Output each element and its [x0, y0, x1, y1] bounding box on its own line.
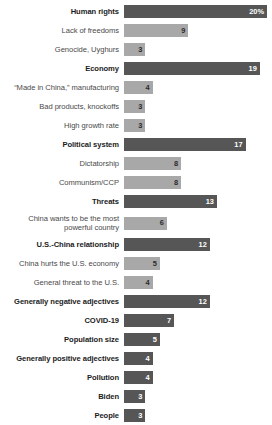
bar-row: Pollution4: [0, 368, 272, 387]
bar-track: 5: [124, 330, 272, 349]
bar-value-label: 8: [174, 160, 178, 167]
bar-track: 4: [124, 273, 272, 292]
bar-row-label: Biden: [0, 392, 124, 401]
bar-row-label: “Made in China,” manufacturing: [0, 83, 124, 92]
bar-row: Population size5: [0, 330, 272, 349]
bar-value-label: 3: [138, 393, 142, 400]
bar-row: Political system17: [0, 135, 272, 154]
bar: 5: [124, 333, 160, 346]
bar-row-label: Threats: [0, 197, 124, 206]
bar-value-label: 9: [181, 27, 185, 34]
bar: 3: [124, 390, 145, 403]
bar-track: 3: [124, 406, 272, 425]
bar-row-label: Genocide, Uyghurs: [0, 45, 124, 54]
bar: 3: [124, 119, 145, 132]
bar-row: Dictatorship8: [0, 154, 272, 173]
bar-value-label: 13: [206, 198, 214, 205]
bar-row: High growth rate3: [0, 116, 272, 135]
bar: 3: [124, 409, 145, 422]
bar-value-label: 8: [174, 179, 178, 186]
bar: 4: [124, 276, 153, 289]
bar: 4: [124, 352, 153, 365]
bar-row: China wants to be the most powerful coun…: [0, 211, 272, 235]
bar-row: Generally positive adjectives4: [0, 349, 272, 368]
bar-row-label: General threat to the U.S.: [0, 278, 124, 287]
bar-row: Lack of freedoms9: [0, 21, 272, 40]
bar-row-label: U.S.-China relationship: [0, 240, 124, 249]
bar-row-label: Lack of freedoms: [0, 26, 124, 35]
bar-track: 5: [124, 254, 272, 273]
bar: 12: [124, 238, 210, 251]
bar-value-label: 19: [249, 65, 257, 72]
bar-row: Economy19: [0, 59, 272, 78]
bar-value-label: 5: [153, 260, 157, 267]
bar-row-label: People: [0, 411, 124, 420]
bar-row-label: Generally negative adjectives: [0, 297, 124, 306]
bar: 5: [124, 257, 160, 270]
bar-row-label: COVID-19: [0, 316, 124, 325]
bar-row: Communism/CCP8: [0, 173, 272, 192]
bar-track: 8: [124, 173, 272, 192]
bar: 17: [124, 138, 246, 151]
bar-track: 12: [124, 292, 272, 311]
bar-row: General threat to the U.S.4: [0, 273, 272, 292]
bar-value-label: 12: [199, 241, 207, 248]
bar-track: 8: [124, 154, 272, 173]
bar-track: 13: [124, 192, 272, 211]
bar-row: Human rights20%: [0, 2, 272, 21]
bar-track: 3: [124, 387, 272, 406]
bar-row: People3: [0, 406, 272, 425]
bar-track: 4: [124, 349, 272, 368]
bar: 20%: [124, 5, 267, 18]
bar: 4: [124, 81, 153, 94]
bar-row-label: Dictatorship: [0, 159, 124, 168]
bar-row-label: Bad products, knockoffs: [0, 102, 124, 111]
bar-row: Bad products, knockoffs3: [0, 97, 272, 116]
bar-value-label: 17: [234, 141, 242, 148]
bar-row-label: Political system: [0, 140, 124, 149]
bar-value-label: 4: [145, 355, 149, 362]
bar-value-label: 6: [160, 219, 164, 226]
bar-value-label: 4: [145, 279, 149, 286]
bar-row: Genocide, Uyghurs3: [0, 40, 272, 59]
bar-value-label: 3: [138, 122, 142, 129]
bar-row-label: Economy: [0, 64, 124, 73]
bar-value-label: 4: [145, 374, 149, 381]
bar: 12: [124, 295, 210, 308]
bar-track: 3: [124, 116, 272, 135]
bar-row-label: Communism/CCP: [0, 178, 124, 187]
bar-value-label: 4: [145, 84, 149, 91]
bar: 19: [124, 62, 260, 75]
bar-value-label: 3: [138, 46, 142, 53]
bar: 8: [124, 157, 181, 170]
bar-track: 4: [124, 78, 272, 97]
bar-track: 9: [124, 21, 272, 40]
bar: 13: [124, 195, 217, 208]
bar-value-label: 3: [138, 103, 142, 110]
bar-track: 19: [124, 59, 272, 78]
bar-row: “Made in China,” manufacturing4: [0, 78, 272, 97]
bar-row: Biden3: [0, 387, 272, 406]
bar-row-label: China hurts the U.S. economy: [0, 259, 124, 268]
bar: 8: [124, 176, 181, 189]
bar-row-label: China wants to be the most powerful coun…: [0, 214, 124, 232]
bar: 6: [124, 217, 167, 230]
bar-row: Generally negative adjectives12: [0, 292, 272, 311]
bar-track: 7: [124, 311, 272, 330]
bar-value-label: 3: [138, 412, 142, 419]
bar: 4: [124, 371, 153, 384]
bar-row-label: Generally positive adjectives: [0, 354, 124, 363]
bar-track: 20%: [124, 2, 272, 21]
bar-row: Threats13: [0, 192, 272, 211]
bar-row-label: Human rights: [0, 7, 124, 16]
bar-track: 3: [124, 97, 272, 116]
bar-value-label: 5: [153, 336, 157, 343]
bar-track: 12: [124, 235, 272, 254]
bar-track: 4: [124, 368, 272, 387]
bar-row: China hurts the U.S. economy5: [0, 254, 272, 273]
bar-value-label: 20%: [249, 8, 264, 15]
bar-track: 6: [124, 211, 272, 235]
bar-track: 17: [124, 135, 272, 154]
bar-row-label: High growth rate: [0, 121, 124, 130]
